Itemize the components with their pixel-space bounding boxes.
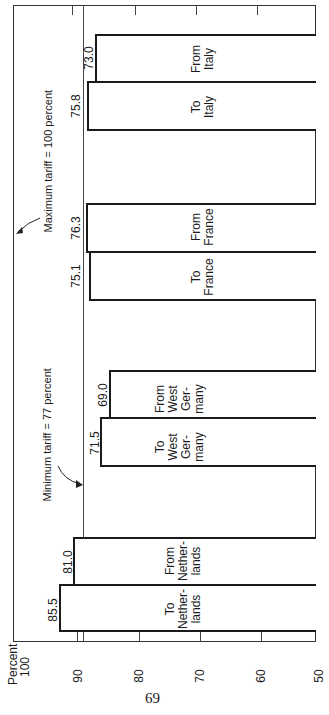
tick-label-90: 90 [71, 668, 85, 684]
maximum-arrow-icon [14, 214, 44, 238]
tick-label-70: 70 [193, 668, 207, 684]
axis-tick-top [135, 5, 136, 15]
page-number: 69 [145, 690, 160, 707]
value-label-from-france: 76.3 [70, 213, 82, 243]
tick-label-80: 80 [132, 668, 146, 684]
bar-label-to-italy: To Italy [190, 62, 220, 152]
axis-tick-top [257, 5, 258, 15]
tick-label-50: 50 [312, 668, 326, 684]
bar-to-west-germany [100, 417, 316, 467]
axis-tick-bottom [77, 632, 78, 642]
value-label-from-netherlands: 81.0 [62, 547, 74, 577]
value-label-from-italy: 73.0 [83, 43, 95, 73]
tick-label-60: 60 [254, 668, 268, 684]
value-label-to-west-germany: 71.5 [89, 428, 101, 458]
value-label-to-france: 75.1 [70, 261, 82, 291]
axis-label-percent: Percent 100 [7, 649, 21, 685]
axis-tick-bottom [261, 632, 262, 642]
axis-tick-top [72, 5, 73, 15]
bar-label-to-netherlands: To Nether- lands [164, 564, 206, 654]
axis-tick-bottom [139, 632, 140, 642]
bar-label-to-france: To France [190, 232, 220, 322]
value-label-to-italy: 75.8 [70, 91, 82, 121]
value-label-to-netherlands: 85.5 [47, 595, 59, 625]
bar-label-to-west-germany: To West Ger- many [154, 402, 208, 492]
minimum-arrow-icon [56, 464, 86, 490]
minimum-tariff-annotation: Minimum tariff = 77 percent [41, 372, 54, 502]
maximum-tariff-annotation: Maximum tariff = 100 percent [42, 93, 55, 233]
bar-from-west-germany [109, 370, 316, 419]
tick-label-100: 100 [19, 649, 31, 685]
value-label-from-west-germany: 69.0 [97, 380, 109, 410]
